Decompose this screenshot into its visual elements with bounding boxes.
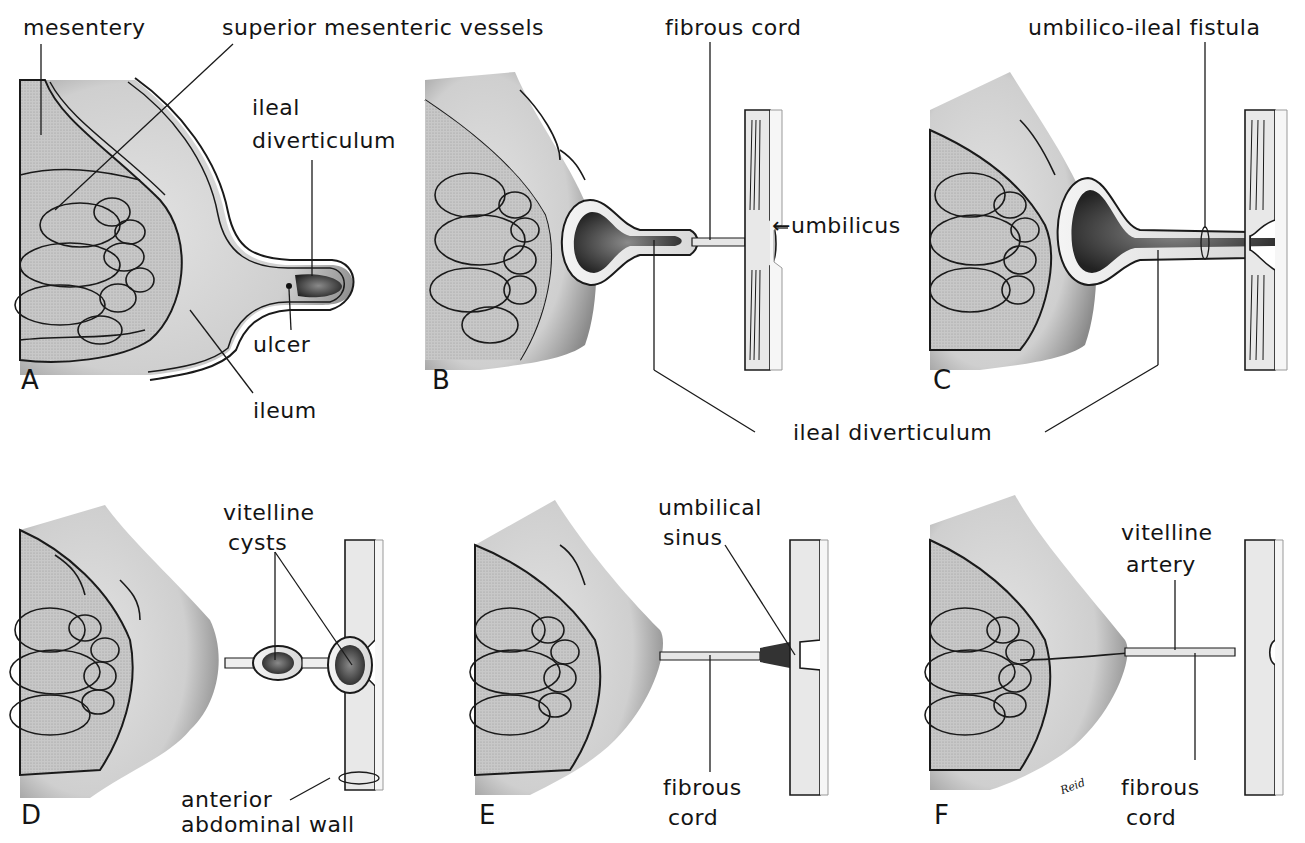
label-ulcer: ulcer [253,332,310,358]
panel-letter-a: A [21,365,39,395]
label-ileal-diverticulum-shared: ileal diverticulum [793,420,992,446]
panel-e-illustration [470,500,828,795]
label-anterior-abdominal-wall-line1: anterior [181,787,272,813]
label-ileal-diverticulum-a-line2: diverticulum [252,128,396,154]
label-umbilical-sinus-line2: sinus [663,525,722,551]
panel-c-illustration [930,72,1287,370]
label-vitelline-artery-line2: artery [1126,552,1196,578]
label-umbilico-ileal-fistula: umbilico-ileal fistula [1028,15,1260,41]
label-mesentery: mesentery [23,15,146,41]
label-vitelline-cysts-line1: vitelline [223,500,315,526]
label-fibrous-cord-f-line1: fibrous [1121,775,1200,801]
panel-letter-d: D [21,800,41,830]
label-vitelline-artery-line1: vitelline [1121,520,1213,546]
panel-d-illustration [10,505,383,798]
label-fibrous-cord-e-line1: fibrous [663,775,742,801]
panel-letter-f: F [934,800,949,830]
label-ileum: ileum [253,398,317,424]
label-fibrous-cord-e-line2: cord [668,805,718,831]
label-ileal-diverticulum-a-line1: ileal [252,95,300,121]
diagram-artwork [0,0,1305,843]
panel-letter-c: C [933,365,951,395]
label-umbilicus: ←umbilicus [772,213,901,239]
label-anterior-abdominal-wall-line2: abdominal wall [181,812,355,838]
panel-letter-b: B [432,365,450,395]
panel-b-illustration [425,72,782,370]
label-superior-mesenteric-vessels: superior mesenteric vessels [222,15,544,41]
label-umbilical-sinus-line1: umbilical [658,495,762,521]
label-fibrous-cord-b: fibrous cord [665,15,801,41]
panel-f-illustration [925,495,1283,795]
label-vitelline-cysts-line2: cysts [228,530,287,556]
panel-f-leader-lines [1175,580,1195,760]
panel-letter-e: E [479,800,495,830]
label-fibrous-cord-f-line2: cord [1126,805,1176,831]
